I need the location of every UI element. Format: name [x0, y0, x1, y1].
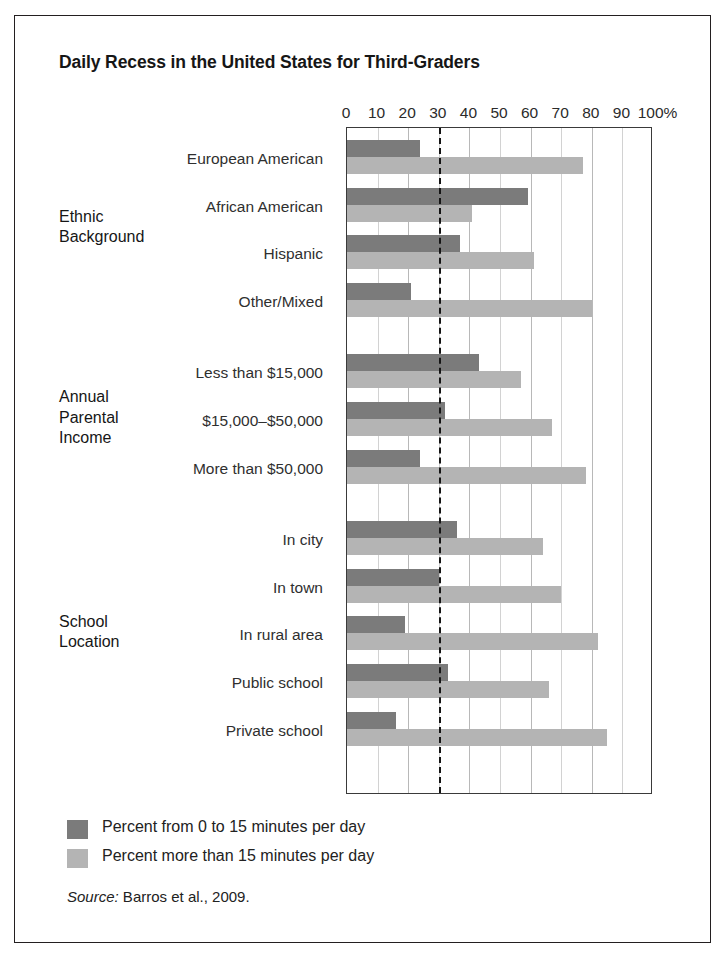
bar-short-recess	[347, 402, 445, 419]
gridline-70	[561, 128, 562, 793]
bar-long-recess	[347, 419, 552, 436]
group-label-line: Background	[59, 227, 144, 247]
x-tick-label-60: 60	[521, 104, 538, 122]
x-tick-label-30: 30	[429, 104, 446, 122]
gridline-90	[622, 128, 623, 793]
x-tick-label-0: 0	[342, 104, 351, 122]
group-label-2: SchoolLocation	[59, 612, 120, 653]
x-tick-label-90: 90	[613, 104, 630, 122]
group-label-line: Ethnic	[59, 207, 144, 227]
bar-short-recess	[347, 569, 439, 586]
group-label-line: Annual	[59, 387, 119, 407]
bar-long-recess	[347, 205, 472, 222]
legend-item: Percent from 0 to 15 minutes per day	[67, 816, 627, 845]
bar-short-recess	[347, 616, 405, 633]
x-tick-label-80: 80	[582, 104, 599, 122]
bar-long-recess	[347, 467, 586, 484]
group-label-0: EthnicBackground	[59, 207, 144, 248]
group-label-1: AnnualParentalIncome	[59, 387, 119, 448]
x-tick-label-10: 10	[368, 104, 385, 122]
chart-title: Daily Recess in the United States for Th…	[59, 52, 480, 73]
bar-short-recess	[347, 235, 460, 252]
bar-short-recess	[347, 283, 411, 300]
bar-short-recess	[347, 140, 420, 157]
bar-long-recess	[347, 371, 521, 388]
bar-long-recess	[347, 729, 607, 746]
figure-panel: Daily Recess in the United States for Th…	[14, 15, 711, 943]
bar-short-recess	[347, 354, 479, 371]
source-prefix: Source:	[67, 888, 119, 905]
x-tick-label-40: 40	[460, 104, 477, 122]
legend-swatch-long-recess	[67, 849, 88, 868]
legend-item: Percent more than 15 minutes per day	[67, 845, 627, 874]
bar-short-recess	[347, 664, 448, 681]
legend-label: Percent from 0 to 15 minutes per day	[102, 818, 365, 836]
group-label-line: Income	[59, 428, 119, 448]
legend-label: Percent more than 15 minutes per day	[102, 847, 374, 865]
bar-short-recess	[347, 188, 528, 205]
group-label-line: Location	[59, 632, 120, 652]
x-tick-label-20: 20	[399, 104, 416, 122]
bar-long-recess	[347, 300, 592, 317]
legend-swatch-short-recess	[67, 820, 88, 839]
source-note: Source: Barros et al., 2009.	[67, 888, 250, 905]
bar-long-recess	[347, 157, 583, 174]
plot-area	[346, 127, 652, 794]
bar-long-recess	[347, 586, 561, 603]
x-tick-label-100: 100%	[638, 104, 678, 122]
gridline-80	[592, 128, 593, 793]
bar-long-recess	[347, 538, 543, 555]
group-labels: EthnicBackgroundAnnualParentalIncomeScho…	[15, 127, 337, 794]
bar-long-recess	[347, 681, 549, 698]
source-citation: Barros et al., 2009.	[119, 888, 250, 905]
x-axis-tick-labels: 0102030405060708090100%	[331, 104, 691, 124]
group-label-line: Parental	[59, 408, 119, 428]
chart-legend: Percent from 0 to 15 minutes per dayPerc…	[67, 816, 627, 874]
x-tick-label-70: 70	[552, 104, 569, 122]
bar-short-recess	[347, 712, 396, 729]
group-label-line: School	[59, 612, 120, 632]
reference-line-30-percent	[439, 128, 441, 793]
bar-short-recess	[347, 450, 420, 467]
bar-long-recess	[347, 633, 598, 650]
x-tick-label-50: 50	[490, 104, 507, 122]
